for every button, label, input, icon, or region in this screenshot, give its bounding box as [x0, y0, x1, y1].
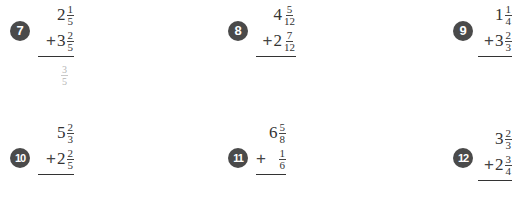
plus-sign: + [256, 149, 266, 169]
sum-line [38, 56, 74, 57]
problem-number-badge: 11 [228, 148, 248, 168]
sum-line [256, 174, 286, 175]
fraction: 14 [505, 4, 513, 27]
fraction: 25 [67, 30, 75, 53]
bottom-addend: + 2 34 [478, 152, 512, 178]
numerator: 2 [67, 148, 75, 160]
fraction: 16 [279, 148, 287, 171]
plus-sign: + [484, 31, 494, 51]
numerator: 2 [67, 30, 75, 42]
denominator: 4 [505, 16, 513, 27]
bottom-addend: + 2 25 [38, 146, 74, 172]
fraction: 58 [279, 122, 287, 145]
addition-stack: 6 58 + 16 [256, 120, 286, 175]
problem-number-badge: 8 [228, 21, 248, 41]
top-addend: 4 512 [256, 2, 296, 28]
numerator: 5 [286, 4, 294, 16]
numerator: 1 [279, 148, 287, 160]
top-addend: 2 15 [38, 2, 74, 28]
whole-part: 1 [495, 5, 504, 25]
whole-part: 2 [57, 5, 66, 25]
fraction: 512 [283, 4, 296, 27]
whole-part: 2 [274, 31, 283, 51]
numerator: 2 [505, 30, 513, 42]
top-addend: 3 23 [478, 126, 512, 152]
addition-stack: 2 15 + 3 25 [38, 2, 74, 57]
numerator: 3 [505, 154, 513, 166]
sum-line [478, 180, 512, 181]
numerator: 5 [279, 122, 287, 134]
whole-part: 4 [274, 5, 283, 25]
denominator: 5 [67, 160, 75, 171]
denominator: 3 [505, 140, 513, 151]
addition-stack: 1 14 + 3 23 [478, 2, 512, 57]
sum-line [256, 56, 296, 57]
whole-part: 5 [57, 123, 66, 143]
sum-line [478, 56, 512, 57]
denominator: 8 [279, 134, 287, 145]
numerator: 2 [67, 122, 75, 134]
denominator: 6 [279, 160, 287, 171]
denominator: 3 [67, 134, 75, 145]
bottom-addend: + 3 25 [38, 28, 74, 54]
top-addend: 1 14 [478, 2, 512, 28]
numerator: 2 [505, 128, 513, 140]
whole-part: 3 [495, 129, 504, 149]
plus-sign: + [484, 155, 494, 175]
fraction: 23 [67, 122, 75, 145]
bottom-addend: + 2 712 [256, 28, 296, 54]
denominator: 5 [67, 42, 75, 53]
plus-sign: + [46, 149, 56, 169]
whole-part: 6 [269, 123, 278, 143]
denominator: 4 [505, 166, 513, 177]
top-addend: 6 58 [256, 120, 286, 146]
addition-stack: 5 23 + 2 25 [38, 120, 74, 175]
denominator: 12 [283, 16, 296, 27]
problem-number-badge: 7 [10, 21, 30, 41]
bottom-addend: + 3 23 [478, 28, 512, 54]
numerator: 1 [67, 4, 75, 16]
top-addend: 5 23 [38, 120, 74, 146]
addition-stack: 4 512 + 2 712 [256, 2, 296, 57]
plus-sign: + [46, 31, 56, 51]
problem-number-badge: 9 [453, 21, 473, 41]
fraction: 34 [505, 154, 513, 177]
fraction: 23 [505, 30, 513, 53]
fraction: 712 [283, 30, 296, 53]
denominator: 5 [67, 16, 75, 27]
hint-numerator: 3 [61, 64, 68, 76]
problem-number-badge: 12 [453, 148, 473, 168]
whole-part: 2 [57, 149, 66, 169]
addition-stack: 3 23 + 2 34 [478, 126, 512, 181]
answer-hint: 3 5 [61, 64, 68, 87]
hint-denominator: 5 [61, 76, 68, 87]
numerator: 7 [286, 30, 294, 42]
whole-part: 3 [495, 31, 504, 51]
fraction: 25 [67, 148, 75, 171]
problem-number-badge: 10 [10, 148, 30, 168]
plus-sign: + [263, 31, 273, 51]
fraction: 15 [67, 4, 75, 27]
sum-line [38, 174, 74, 175]
bottom-addend: + 16 [256, 146, 286, 172]
whole-part: 3 [57, 31, 66, 51]
denominator: 3 [505, 42, 513, 53]
fraction: 23 [505, 128, 513, 151]
numerator: 1 [505, 4, 513, 16]
denominator: 12 [283, 42, 296, 53]
whole-part: 2 [495, 155, 504, 175]
